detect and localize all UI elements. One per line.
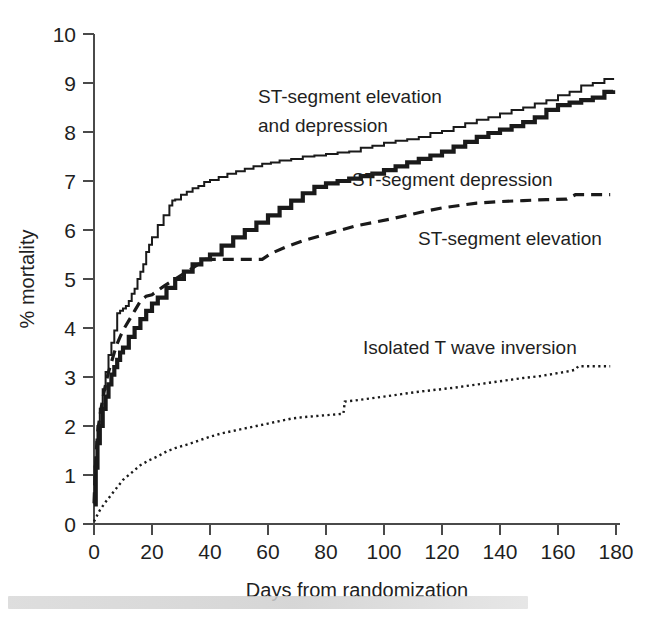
x-tick-label: 60 [256, 540, 279, 563]
x-tick-label: 100 [366, 540, 401, 563]
x-tick-label: 80 [314, 540, 337, 563]
figure-container: 012345678910 020406080100120140160180 Da… [0, 0, 657, 617]
x-tick-label: 0 [88, 540, 100, 563]
y-tick-label: 0 [64, 513, 76, 536]
y-axis-tick-marks [83, 34, 94, 524]
series-label-st-segment-elevation: ST-segment elevation [418, 228, 602, 249]
caption-smudge-decoration [8, 596, 528, 609]
x-tick-label: 20 [140, 540, 163, 563]
series-annotations: ST-segment elevation and depression ST-s… [258, 86, 602, 358]
x-tick-label: 160 [540, 540, 575, 563]
series-label-st-segment-depression: ST-segment depression [352, 169, 553, 190]
data-series-group [94, 78, 613, 521]
y-axis-title: % mortality [16, 230, 38, 329]
y-tick-label: 9 [64, 72, 76, 95]
mortality-line-chart: 012345678910 020406080100120140160180 Da… [0, 0, 657, 617]
x-axis-tick-marks [94, 524, 616, 535]
series-label-elevation-and-depression-line2: and depression [258, 115, 388, 136]
x-tick-label: 140 [482, 540, 517, 563]
x-tick-label: 40 [198, 540, 221, 563]
y-tick-label: 5 [64, 268, 76, 291]
series-label-isolated-t-wave-inversion: Isolated T wave inversion [363, 337, 577, 358]
y-tick-label: 8 [64, 121, 76, 144]
y-tick-label: 6 [64, 219, 76, 242]
y-tick-label: 4 [64, 317, 76, 340]
data-curve [94, 78, 613, 502]
x-tick-label: 120 [424, 540, 459, 563]
y-tick-label: 3 [64, 366, 76, 389]
y-axis-tick-labels: 012345678910 [53, 23, 77, 536]
y-tick-label: 2 [64, 415, 76, 438]
y-tick-label: 7 [64, 170, 76, 193]
y-tick-label: 1 [64, 464, 76, 487]
data-curve [94, 366, 610, 521]
y-tick-label: 10 [53, 23, 76, 46]
x-tick-label: 180 [598, 540, 633, 563]
x-axis-tick-labels: 020406080100120140160180 [88, 540, 633, 563]
series-label-elevation-and-depression-line1: ST-segment elevation [258, 86, 442, 107]
